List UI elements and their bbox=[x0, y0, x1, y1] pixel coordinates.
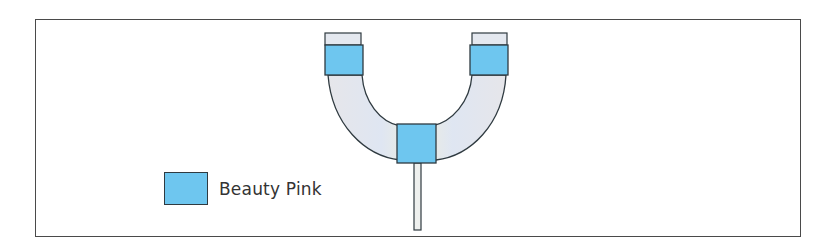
stem bbox=[414, 163, 421, 230]
legend: Beauty Pink bbox=[164, 172, 322, 205]
left-highlight-segment bbox=[325, 45, 363, 75]
center-highlight-segment bbox=[397, 124, 436, 163]
right-tube-cap bbox=[472, 33, 507, 45]
left-tube-cap bbox=[325, 33, 361, 45]
u-tube-diagram bbox=[0, 0, 828, 246]
right-highlight-segment bbox=[470, 45, 508, 75]
legend-label: Beauty Pink bbox=[219, 179, 322, 199]
legend-swatch-icon bbox=[164, 172, 208, 205]
